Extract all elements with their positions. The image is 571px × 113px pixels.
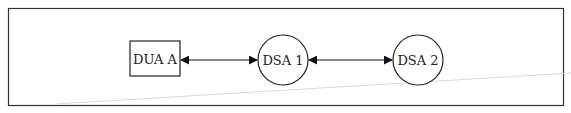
node-label-dua-a: DUA A bbox=[133, 52, 177, 67]
diagram-canvas: DUA A DSA 1 DSA 2 bbox=[0, 0, 571, 113]
node-dua-a: DUA A bbox=[130, 41, 180, 76]
node-dsa-2: DSA 2 bbox=[393, 35, 443, 85]
node-label-dsa-1: DSA 1 bbox=[262, 53, 303, 68]
node-label-dsa-2: DSA 2 bbox=[397, 53, 438, 68]
scan-artifact-line bbox=[55, 73, 571, 104]
node-dsa-1: DSA 1 bbox=[258, 35, 308, 85]
